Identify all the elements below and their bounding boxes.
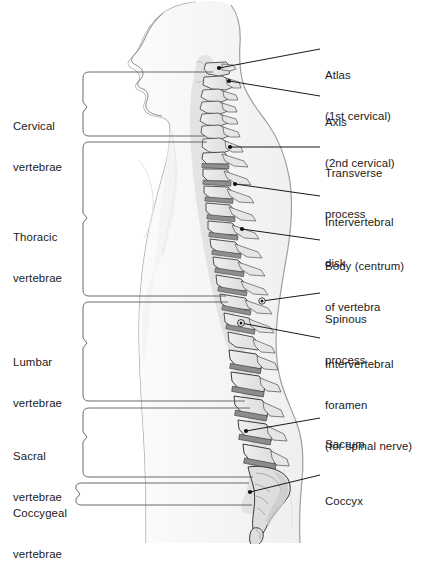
region-label-cervical-line2: vertebrae: [13, 161, 62, 175]
region-label-cervical: Cervical vertebrae: [13, 93, 62, 202]
dot-intervertebral-disk: [233, 182, 237, 186]
part-label-coccyx: Coccyx: [325, 468, 363, 536]
part-label-intervertebral-foramen-line1: Intervertebral: [325, 358, 412, 372]
region-label-coccygeal-line1: Coccygeal: [13, 507, 67, 521]
region-label-thoracic: Thoracic vertebrae: [13, 204, 62, 313]
region-label-lumbar-line1: Lumbar: [13, 356, 62, 370]
region-label-thoracic-line1: Thoracic: [13, 231, 62, 245]
region-label-sacral-line1: Sacral: [13, 450, 62, 464]
part-label-body-centrum-line1: Body (centrum): [325, 260, 404, 274]
region-label-lumbar: Lumbar vertebrae: [13, 329, 62, 438]
part-label-intervertebral-disk-line1: Intervertebral: [325, 216, 394, 230]
dot-body-centrum: [240, 227, 244, 231]
coccyx-bone: [250, 528, 264, 544]
dot-atlas: [217, 66, 221, 70]
part-label-transverse-process-line1: Transverse: [325, 167, 383, 181]
dot-transverse-process: [228, 145, 232, 149]
part-label-sacrum-line1: Sacrum: [325, 438, 365, 452]
part-label-spinous-process-line1: Spinous: [325, 313, 367, 327]
region-label-thoracic-line2: vertebrae: [13, 272, 62, 286]
region-label-coccygeal-line2: vertebrae: [13, 548, 67, 562]
dot-axis: [227, 79, 231, 83]
part-label-axis-line1: Axis: [325, 116, 395, 130]
part-label-coccyx-line1: Coccyx: [325, 495, 363, 509]
dot-sacrum: [244, 429, 248, 433]
part-label-atlas-line1: Atlas: [325, 69, 391, 83]
region-label-lumbar-line2: vertebrae: [13, 397, 62, 411]
dot-coccyx: [248, 490, 252, 494]
region-label-cervical-line1: Cervical: [13, 120, 62, 134]
region-label-coccygeal: Coccygeal vertebrae: [13, 480, 67, 562]
